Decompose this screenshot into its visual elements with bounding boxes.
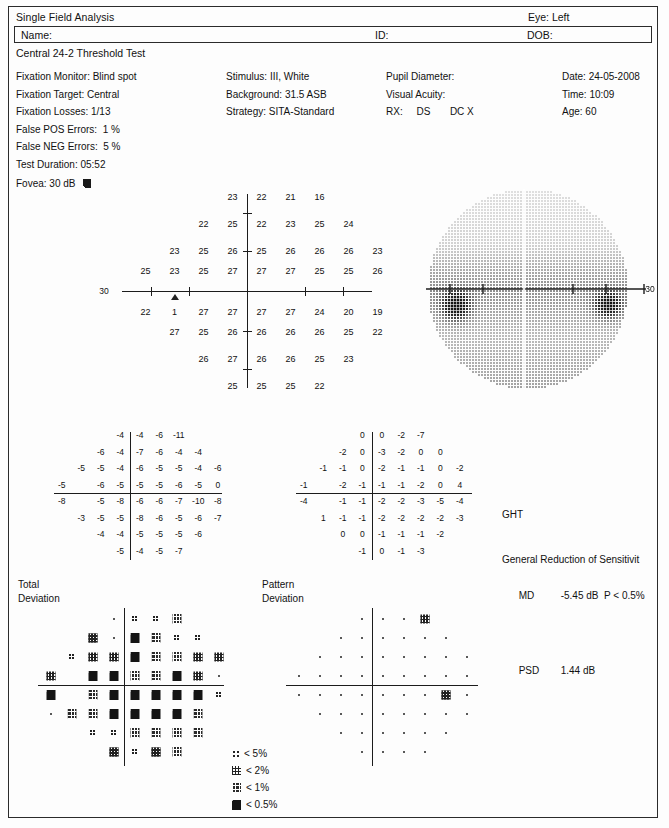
md-value: -5.45 dB P < 0.5% [561,590,645,601]
pd-prob-dot-symbol [340,713,342,715]
total-deviation-value: -5 [116,480,124,490]
total-deviation-value: -6 [136,463,144,473]
threshold-value: 25 [343,327,353,337]
pd-prob-dot-symbol [319,675,321,677]
pd-prob-dot-symbol [424,751,426,753]
pattern-deviation-value: 0 [418,447,423,457]
axis-tick [305,287,306,296]
pattern-deviation-value: 0 [340,529,345,539]
total-deviation-value: -6 [155,496,163,506]
pd-prob-dot-symbol [361,675,363,677]
td-prob-p5-symbol [131,748,138,755]
legend-p5-icon [232,750,239,757]
pd-prob-horizontal-axis [286,685,478,686]
id-field-label[interactable]: ID: [375,29,388,41]
total-deviation-value: -6 [136,496,144,506]
total-deviation-value: -11 [173,430,185,440]
threshold-value: 27 [227,266,237,276]
pd-prob-dot-symbol [403,694,405,696]
legend-item: < 1% [232,779,277,796]
total-deviation-value: -4 [116,529,124,539]
pattern-deviation-value: 0 [438,463,443,473]
report-title: Single Field Analysis [16,11,114,23]
td-prob-p05-symbol [130,709,139,719]
total-deviation-value: -5 [77,463,85,473]
pattern-deviation-value: 4 [457,480,462,490]
pattern-deviation-value: -2 [397,447,405,457]
pd-prob-dot-symbol [424,637,426,639]
pd-prob-dot-symbol [382,694,384,696]
pd-prob-p2-symbol [420,614,429,623]
pattern-deviation-value: -1 [339,496,347,506]
td-prob-p5-symbol [152,615,159,622]
td-prob-dot-symbol [113,637,115,639]
pd-prob-dot-symbol [403,656,405,658]
total-deviation-value: -5 [58,480,66,490]
total-deviation-value: -5 [155,480,163,490]
td-prob-p1-symbol [67,709,76,719]
threshold-value: 22 [256,219,266,229]
pattern-deviation-numeric-plot: 00-2-7-20-3-200-1-10-2-1-10-2-1-2-1-1-1-… [296,432,476,562]
total-deviation-value: -6 [155,430,163,440]
td-prob-p1-symbol [151,671,160,681]
threshold-value: 23 [372,246,382,256]
td-prob-p1-symbol [172,652,181,662]
pattern-deviation-value: -4 [456,496,464,506]
threshold-value: 27 [256,307,266,317]
td-prob-p05-symbol [109,709,118,719]
td-prob-p1-symbol [130,728,139,738]
axis-tick [189,287,190,296]
total-deviation-value: -5 [97,513,105,523]
pattern-deviation-value: -1 [358,496,366,506]
td-prob-p1-symbol [130,671,139,681]
pd-prob-dot-symbol [298,675,300,677]
exam-datetime-parameters: Date: 24-05-2008 Time: 10:09 Age: 60 [562,68,640,121]
threshold-value: 22 [314,381,324,391]
td-prob-p2-symbol [193,671,202,680]
axis-tick [243,369,252,370]
dob-field-label[interactable]: DOB: [527,29,553,41]
pd-prob-dot-symbol [319,713,321,715]
legend-item: < 2% [232,762,277,779]
threshold-value: 20 [343,307,353,317]
pd-prob-dot-symbol [361,656,363,658]
threshold-value: 26 [227,327,237,337]
td-horizontal-axis [54,493,222,494]
pd-prob-dot-symbol [361,694,363,696]
pd-prob-dot-symbol [403,713,405,715]
pattern-deviation-value: -2 [339,480,347,490]
visual-field-report: Single Field Analysis Eye: Left Name: ID… [0,0,669,828]
total-deviation-value: -5 [97,463,105,473]
pd-prob-dot-symbol [361,637,363,639]
pattern-deviation-value: 0 [360,430,365,440]
pattern-deviation-value: -4 [300,496,308,506]
threshold-value: 26 [256,354,266,364]
threshold-value: 25 [256,381,266,391]
total-deviation-value: -6 [194,529,202,539]
fovea-symbol-icon [83,179,91,188]
pattern-deviation-value: -1 [397,480,405,490]
td-prob-p5-symbol [215,691,222,698]
total-deviation-value: -4 [136,430,144,440]
pattern-deviation-value: -2 [397,513,405,523]
total-deviation-value: -5 [155,529,163,539]
threshold-value: 26 [372,266,382,276]
threshold-value: 26 [256,327,266,337]
pd-prob-dot-symbol [340,637,342,639]
td-prob-p1-symbol [88,709,97,719]
pd-prob-dot-symbol [382,675,384,677]
threshold-value: 26 [285,246,295,256]
td-prob-p5-symbol [131,615,138,622]
pattern-deviation-value: -2 [397,430,405,440]
td-prob-p2-symbol [46,671,55,680]
threshold-value: 25 [227,219,237,229]
name-field-label[interactable]: Name: [21,29,52,41]
threshold-value: 23 [227,192,237,202]
total-deviation-value: -6 [155,513,163,523]
pd-prob-dot-symbol [445,713,447,715]
threshold-value: 26 [285,354,295,364]
total-deviation-value: -4 [136,546,144,556]
legend-label: < 2% [246,762,269,779]
fovea-label: Fovea: 30 dB [16,178,75,189]
pattern-deviation-value: 0 [360,529,365,539]
